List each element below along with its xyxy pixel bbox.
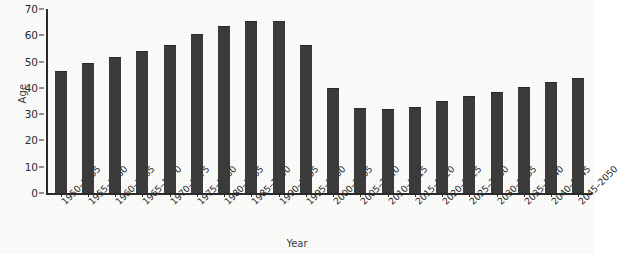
- bar: [436, 101, 448, 193]
- y-tick-label: 30: [25, 108, 38, 120]
- x-tick-mark: [578, 194, 579, 197]
- x-tick-mark: [279, 194, 280, 197]
- bar: [109, 57, 121, 193]
- bar: [164, 45, 176, 193]
- bar: [273, 21, 285, 193]
- bar: [300, 45, 312, 193]
- x-tick-mark: [524, 194, 525, 197]
- y-tick-mark: [39, 87, 44, 88]
- bar: [82, 63, 94, 193]
- x-tick-mark: [551, 194, 552, 197]
- y-tick-mark: [39, 166, 44, 167]
- bar: [545, 82, 557, 193]
- y-tick-label: 60: [25, 29, 38, 41]
- bar: [463, 96, 475, 193]
- y-tick-mark: [39, 35, 44, 36]
- bar: [409, 107, 421, 193]
- bar: [354, 108, 366, 193]
- bar: [245, 21, 257, 193]
- x-tick-mark: [497, 194, 498, 197]
- x-tick-mark: [360, 194, 361, 197]
- bar: [327, 88, 339, 193]
- bar: [191, 34, 203, 193]
- bar: [382, 109, 394, 193]
- y-tick-label: 0: [31, 187, 38, 199]
- y-tick-label: 40: [25, 82, 38, 94]
- x-tick-mark: [170, 194, 171, 197]
- x-tick-mark: [61, 194, 62, 197]
- x-tick-mark: [142, 194, 143, 197]
- plot-area: [47, 9, 592, 193]
- x-tick-mark: [388, 194, 389, 197]
- x-tick-mark: [415, 194, 416, 197]
- x-tick-mark: [469, 194, 470, 197]
- x-tick-mark: [115, 194, 116, 197]
- y-tick-mark: [39, 9, 44, 10]
- y-tick-label: 70: [25, 3, 38, 15]
- bar: [218, 26, 230, 193]
- bar: [572, 78, 584, 193]
- y-tick-label: 50: [25, 56, 38, 68]
- bar: [136, 51, 148, 193]
- y-tick-mark: [39, 193, 44, 194]
- x-tick-mark: [251, 194, 252, 197]
- x-tick-mark: [306, 194, 307, 197]
- x-tick-mark: [224, 194, 225, 197]
- y-axis-line: [46, 9, 48, 194]
- bar: [55, 71, 67, 193]
- y-tick-mark: [39, 114, 44, 115]
- y-axis-tick-labels: 010203040506070: [0, 0, 46, 254]
- y-tick-mark: [39, 140, 44, 141]
- x-tick-mark: [442, 194, 443, 197]
- x-axis-line: [46, 193, 592, 195]
- x-tick-mark: [88, 194, 89, 197]
- y-tick-label: 20: [25, 134, 38, 146]
- bar: [491, 92, 503, 193]
- y-tick-label: 10: [25, 161, 38, 173]
- x-tick-mark: [333, 194, 334, 197]
- bar: [518, 87, 530, 193]
- y-tick-mark: [39, 61, 44, 62]
- x-axis-title: Year: [0, 238, 594, 249]
- x-tick-mark: [197, 194, 198, 197]
